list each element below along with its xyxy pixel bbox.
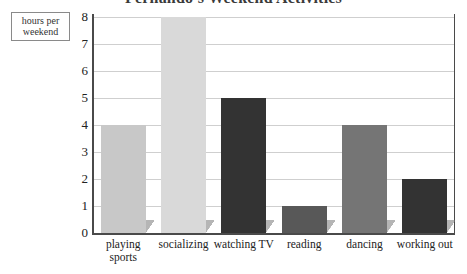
x-axis-tick-label: playing sports bbox=[93, 238, 153, 264]
bar-shadow bbox=[146, 220, 155, 233]
x-axis-tick-labels: playing sportssocializingwatching TVread… bbox=[93, 238, 455, 274]
y-axis-tick-label: 8 bbox=[66, 10, 88, 23]
bar-chart: Fernando's Weekend Activities hours per … bbox=[0, 0, 467, 274]
y-axis-tick-label: 5 bbox=[66, 91, 88, 104]
x-axis-tick-label: watching TV bbox=[214, 238, 274, 251]
x-axis-tick-label: reading bbox=[274, 238, 334, 251]
x-axis-line bbox=[92, 233, 455, 235]
bar bbox=[221, 98, 266, 233]
y-axis-tick-label: 4 bbox=[66, 118, 88, 131]
x-axis-tick-label: dancing bbox=[334, 238, 394, 251]
bar bbox=[402, 179, 447, 233]
y-axis-label-line-1: hours per bbox=[15, 15, 66, 26]
y-axis-tick-label: 6 bbox=[66, 64, 88, 77]
bar bbox=[161, 17, 206, 233]
y-axis-tick-label: 2 bbox=[66, 172, 88, 185]
y-axis-tick-label: 3 bbox=[66, 145, 88, 158]
bar bbox=[342, 125, 387, 233]
bar-shadow bbox=[387, 220, 396, 233]
bar bbox=[282, 206, 327, 233]
y-axis-label-line-2: weekend bbox=[15, 26, 66, 37]
bar-shadow bbox=[447, 220, 456, 233]
bar-shadow bbox=[327, 220, 336, 233]
x-axis-tick-label: working out bbox=[395, 238, 455, 251]
y-axis-tick-label: 1 bbox=[66, 199, 88, 212]
bars-container bbox=[93, 17, 455, 233]
y-axis-tick-label: 7 bbox=[66, 37, 88, 50]
y-axis-tick-labels: 012345678 bbox=[62, 0, 88, 274]
y-axis-tick-label: 0 bbox=[66, 226, 88, 239]
bar-shadow bbox=[206, 220, 215, 233]
x-axis-tick-label: socializing bbox=[153, 238, 213, 251]
bar bbox=[101, 125, 146, 233]
bar-shadow bbox=[266, 220, 275, 233]
